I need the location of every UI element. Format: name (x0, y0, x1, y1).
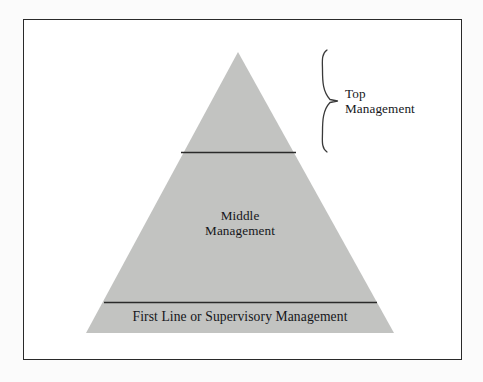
label-middle-management: Middle Management (140, 208, 340, 239)
label-first-line-management: First Line or Supervisory Management (90, 309, 390, 325)
figure-root: Top Management Middle Management First L… (0, 0, 483, 382)
brace-top-management-icon (322, 50, 337, 152)
label-top-management: Top Management (345, 86, 415, 117)
